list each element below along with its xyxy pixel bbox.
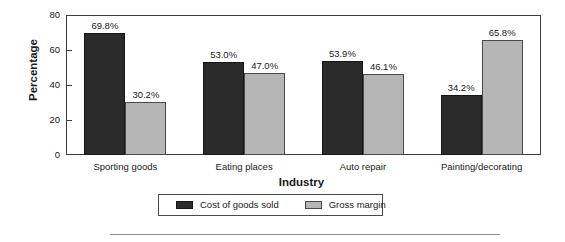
y-tick-label: 60 [38,45,60,55]
x-category-label: Sporting goods [93,162,157,172]
bar-value-label: 53.9% [329,49,356,59]
y-tick-label: 40 [38,80,60,90]
legend-swatch-icon-dark [176,201,193,209]
bar-chart-figure: Percentage 020406080 69.8%30.2%53.0%47.0… [0,0,565,242]
bar [482,40,523,155]
legend-label-1: Gross margin [329,200,386,210]
y-tick-mark [67,120,72,121]
x-axis-title-text: Industry [279,176,324,188]
x-category-label: Auto repair [340,162,386,172]
bar-value-label: 30.2% [132,90,159,100]
bar [322,61,363,155]
bar [363,74,404,155]
bar-value-label: 46.1% [370,62,397,72]
bar [441,95,482,155]
bar-value-label: 53.0% [210,50,237,60]
legend-label-0: Cost of goods sold [200,200,279,210]
bar-value-label: 69.8% [91,21,118,31]
x-axis-title: Industry [0,176,565,188]
bar-value-label: 47.0% [251,61,278,71]
bottom-divider [110,234,500,235]
x-category-label: Eating places [216,162,273,172]
y-tick-mark [67,50,72,51]
chart-legend: Cost of goods sold Gross margin [158,194,383,216]
y-tick-label: 80 [38,10,60,20]
legend-item-cost-of-goods-sold: Cost of goods sold [176,200,279,210]
legend-item-gross-margin: Gross margin [305,200,386,210]
bar-value-label: 65.8% [489,28,516,38]
bar-value-label: 34.2% [448,83,475,93]
y-tick-label: 20 [38,115,60,125]
bar [203,62,244,155]
legend-swatch-icon-light [305,201,322,209]
y-tick-mark [67,85,72,86]
bar [244,73,285,155]
bar [84,33,125,155]
y-tick-label: 0 [38,150,60,160]
bar [125,102,166,155]
x-category-label: Painting/decorating [441,162,522,172]
y-axis-title: Percentage [22,0,44,150]
